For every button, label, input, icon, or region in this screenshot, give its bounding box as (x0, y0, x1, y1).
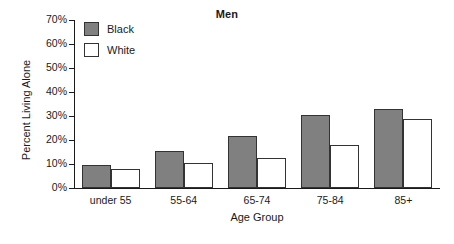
x-tick-label: 55-64 (155, 194, 213, 206)
y-tick-label: 50% (46, 61, 67, 73)
y-tick-mark (69, 44, 74, 45)
y-tick-label: 30% (46, 109, 67, 121)
y-tick-mark (69, 140, 74, 141)
y-tick-mark (69, 68, 74, 69)
bar-group: 75-84 (301, 20, 359, 188)
legend-label: White (107, 44, 135, 56)
bar-black-75-84 (301, 115, 330, 188)
y-tick-label: 70% (46, 13, 67, 25)
y-tick-label: 20% (46, 133, 67, 145)
bar-chart-figure: Men Percent Living Alone 0%10%20%30%40%5… (0, 0, 454, 244)
y-tick-label: 0% (52, 181, 67, 193)
legend-swatch-black (84, 22, 99, 36)
x-axis-title: Age Group (74, 211, 440, 223)
x-tick-label: under 55 (82, 194, 140, 206)
y-tick-label: 10% (46, 157, 67, 169)
legend-item-white: White (84, 39, 135, 60)
y-tick-mark (69, 92, 74, 93)
bar-black-under-55 (82, 165, 111, 188)
legend-swatch-white (84, 43, 99, 57)
bar-white-75-84 (330, 145, 359, 188)
legend-label: Black (107, 23, 134, 35)
y-tick-mark (69, 116, 74, 117)
bar-black-85+ (374, 109, 403, 188)
bar-white-under-55 (111, 169, 140, 188)
x-axis-line (74, 188, 440, 189)
bar-group: 55-64 (155, 20, 213, 188)
x-tick-label: 75-84 (301, 194, 359, 206)
y-tick-mark (69, 188, 74, 189)
bar-white-65-74 (257, 158, 286, 188)
y-tick-mark (69, 164, 74, 165)
bar-white-55-64 (184, 163, 213, 188)
bar-black-65-74 (228, 136, 257, 188)
y-tick-label: 60% (46, 37, 67, 49)
bar-group: 85+ (374, 20, 432, 188)
y-tick-mark (69, 20, 74, 21)
bar-white-85+ (403, 119, 432, 188)
legend-item-black: Black (84, 18, 135, 39)
x-tick-label: 65-74 (228, 194, 286, 206)
y-axis-title: Percent Living Alone (20, 45, 32, 175)
y-axis-line (74, 20, 75, 189)
x-tick-label: 85+ (374, 194, 432, 206)
y-tick-label: 40% (46, 85, 67, 97)
bar-group: 65-74 (228, 20, 286, 188)
chart-title: Men (0, 8, 454, 20)
legend: BlackWhite (84, 18, 135, 60)
bar-black-55-64 (155, 151, 184, 188)
